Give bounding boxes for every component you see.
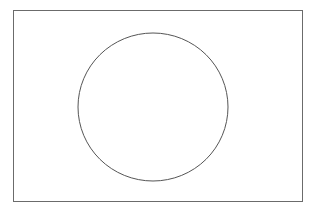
diagram-canvas — [0, 0, 311, 211]
circle-shape — [78, 33, 228, 181]
rectangle-frame — [14, 11, 303, 202]
